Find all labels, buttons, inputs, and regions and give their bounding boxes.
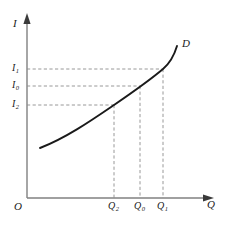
y-tick-label-i0: I0 — [12, 80, 19, 90]
x-tick-sub-q0: 0 — [142, 205, 145, 212]
x-tick-base-q1: Q — [157, 200, 164, 211]
y-tick-base-i2: I — [12, 98, 15, 109]
origin-label: O — [14, 201, 22, 212]
x-tick-sub-q1: 1 — [165, 205, 168, 212]
plot-canvas — [0, 0, 232, 230]
y-tick-base-i1: I — [12, 62, 15, 73]
x-tick-label-q1: Q1 — [157, 201, 167, 211]
y-tick-sub-i0: 0 — [16, 84, 19, 91]
x-tick-label-q2: Q2 — [108, 201, 118, 211]
x-tick-sub-q2: 2 — [116, 205, 119, 212]
x-tick-base-q2: Q — [108, 200, 115, 211]
engel-curve-figure: I Q O D I1 I0 I2 Q2 Q0 Q1 — [0, 0, 232, 230]
y-tick-label-i1: I1 — [12, 63, 19, 73]
x-axis-label: Q — [207, 199, 215, 210]
demand-curve — [40, 46, 177, 148]
y-tick-sub-i1: 1 — [16, 67, 19, 74]
curve-label-d: D — [182, 38, 190, 49]
y-tick-base-i0: I — [12, 79, 15, 90]
x-tick-label-q0: Q0 — [134, 201, 144, 211]
y-axis-arrowhead — [23, 13, 30, 24]
x-tick-base-q0: Q — [134, 200, 141, 211]
y-tick-label-i2: I2 — [12, 99, 19, 109]
y-tick-sub-i2: 2 — [16, 103, 19, 110]
y-axis-label: I — [13, 18, 17, 29]
